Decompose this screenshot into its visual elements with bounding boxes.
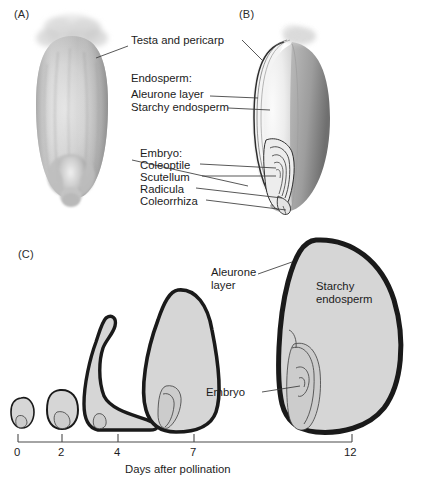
axis-title-days-after-pollination: Days after pollination	[125, 463, 231, 476]
panel-c-series	[11, 240, 401, 442]
label-testa-pericarp: Testa and pericarp	[131, 34, 224, 47]
label-endosperm-heading: Endosperm:	[131, 72, 192, 85]
label-c-aleurone-line1: Aleurone	[211, 266, 256, 279]
grain-body-photo	[36, 36, 108, 207]
figure-root: (A) (B) (C) Testa and pericarp Endosperm…	[0, 0, 421, 485]
label-c-starchy-line1: Starchy	[316, 280, 354, 293]
label-c-embryo: Embryo	[206, 386, 245, 399]
panel-a-illustration	[0, 0, 421, 485]
axis-tick-7: 7	[190, 446, 196, 459]
axis-tick-2: 2	[58, 446, 64, 459]
label-coleorrhiza: Coleorrhiza	[140, 195, 198, 208]
panel-letter-a: (A)	[14, 8, 29, 20]
seed-stage-day-12	[279, 240, 401, 432]
label-c-aleurone-line2: layer	[211, 279, 236, 292]
label-c-starchy-line2: endosperm	[316, 293, 373, 306]
panel-letter-c: (C)	[18, 248, 34, 260]
label-starchy-endosperm: Starchy endosperm	[131, 101, 229, 114]
axis-tick-0: 0	[14, 446, 20, 459]
time-axis	[18, 434, 352, 442]
panel-letter-b: (B)	[239, 8, 254, 20]
seed-stage-day-7	[144, 290, 219, 432]
axis-tick-12: 12	[344, 446, 357, 459]
panel-b-illustration	[252, 25, 330, 215]
label-aleurone-layer: Aleurone layer	[131, 88, 204, 101]
axis-tick-4: 4	[114, 446, 120, 459]
seed-stage-day-0	[11, 398, 34, 428]
seed-stage-day-2	[47, 390, 78, 429]
